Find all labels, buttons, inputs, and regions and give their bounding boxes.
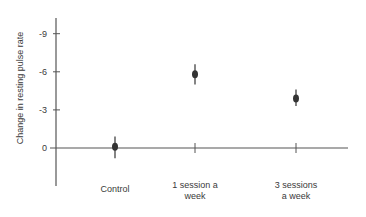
y-tick-label: 0: [42, 143, 47, 153]
category-label: a week: [282, 191, 311, 201]
chart: -9-6-30Change in resting pulse rateContr…: [0, 0, 366, 217]
data-point: [192, 70, 198, 78]
y-tick-label: -6: [39, 67, 47, 77]
data-point: [293, 94, 299, 102]
axes: [50, 18, 348, 186]
category-label: 1 session a: [172, 180, 218, 190]
category-label: week: [183, 191, 206, 201]
category-label: 3 sessions: [275, 180, 318, 190]
y-axis-label: Change in resting pulse rate: [15, 32, 25, 145]
category-label: Control: [100, 184, 129, 194]
data-point: [112, 143, 118, 151]
labels: -9-6-30Change in resting pulse rateContr…: [15, 29, 318, 201]
y-tick-label: -3: [39, 105, 47, 115]
y-tick-label: -9: [39, 29, 47, 39]
data-points: [112, 64, 299, 158]
